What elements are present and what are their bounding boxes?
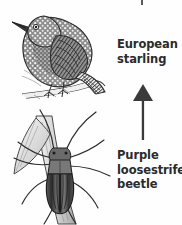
purple-loosestrife-beetle-illustration: [2, 108, 114, 225]
energy-flow-arrow-up-icon: [131, 83, 155, 141]
bird-beak-shape: [12, 22, 28, 32]
food-chain-diagram: European starling: [0, 0, 182, 225]
label-purple-loosestrife-beetle-line2: loosestrife: [117, 163, 182, 178]
label-european-starling-line2: starling: [117, 52, 178, 67]
arrowhead-shape: [133, 84, 153, 101]
label-european-starling-line1: European: [117, 37, 178, 52]
label-purple-loosestrife-beetle-line3: beetle: [117, 177, 182, 192]
bird-tail-shape: [76, 72, 105, 94]
label-european-starling: European starling: [117, 37, 178, 66]
cropped-arrow-tail-icon: [141, 0, 143, 5]
label-purple-loosestrife-beetle: Purple loosestrife beetle: [117, 148, 182, 192]
label-purple-loosestrife-beetle-line1: Purple: [117, 148, 182, 163]
arrow-stem-shape: [142, 100, 144, 140]
european-starling-illustration: [4, 2, 108, 110]
beetle-head-shape: [49, 148, 70, 161]
